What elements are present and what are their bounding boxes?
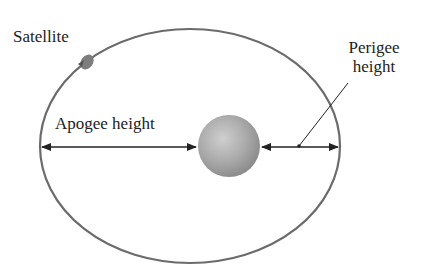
perigee-label: Perigee height bbox=[333, 38, 415, 76]
satellite-label: Satellite bbox=[13, 27, 69, 46]
perigee-label-line2: height bbox=[333, 57, 415, 76]
perigee-label-line1: Perigee bbox=[333, 38, 415, 57]
apogee-label: Apogee height bbox=[55, 114, 155, 133]
earth bbox=[198, 115, 260, 177]
